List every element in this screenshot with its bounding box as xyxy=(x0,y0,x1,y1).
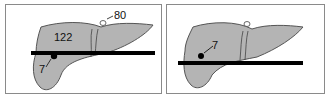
vessel-icon xyxy=(100,21,106,26)
label-122: 122 xyxy=(54,31,72,43)
label-7: 7 xyxy=(212,39,218,51)
liver-diagram-before: 80 122 7 xyxy=(6,5,163,95)
resection-bar xyxy=(31,51,155,55)
tumor-dot xyxy=(51,53,57,59)
panel-after: 7 xyxy=(166,4,325,94)
vessel-icon xyxy=(244,22,250,27)
liver-diagram-after: 7 xyxy=(167,5,326,95)
label-7: 7 xyxy=(39,63,45,75)
panel-before: 80 122 7 xyxy=(5,4,162,94)
tumor-dot xyxy=(198,53,204,59)
label-80: 80 xyxy=(114,9,126,21)
resection-bar xyxy=(178,61,303,65)
